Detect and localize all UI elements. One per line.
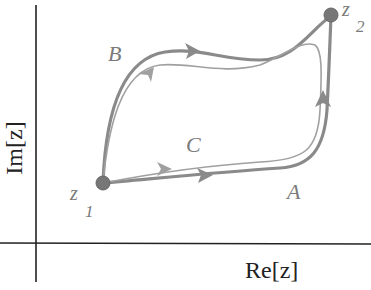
point-z2 bbox=[324, 8, 338, 22]
path-a bbox=[103, 16, 331, 183]
path-b-label: B bbox=[108, 41, 121, 66]
y-axis-label: Im[z] bbox=[1, 121, 27, 174]
z1-label: z bbox=[69, 182, 78, 204]
contour-diagram: z 1 z 2 A B C Re[z] Im[z] bbox=[0, 0, 371, 290]
path-c bbox=[103, 44, 321, 183]
path-b bbox=[103, 16, 331, 183]
z2-label: z bbox=[341, 0, 350, 20]
z2-subscript: 2 bbox=[356, 17, 365, 36]
point-z1 bbox=[96, 176, 110, 190]
x-axis bbox=[0, 243, 371, 244]
arrow-c-forward-icon bbox=[157, 162, 172, 176]
path-a-label: A bbox=[285, 179, 301, 204]
z1-subscript: 1 bbox=[85, 202, 94, 221]
path-c-label: C bbox=[186, 132, 201, 157]
x-axis-label: Re[z] bbox=[245, 257, 298, 283]
